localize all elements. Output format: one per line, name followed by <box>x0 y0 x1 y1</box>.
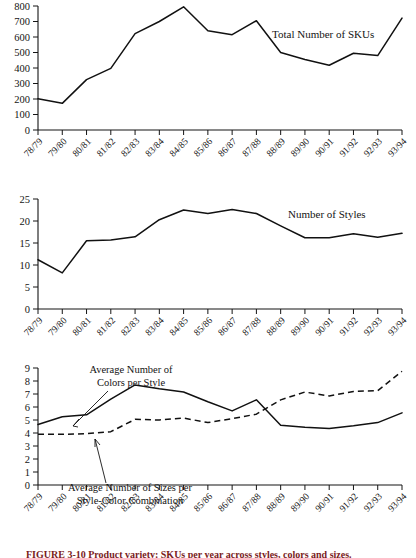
x-tick-label: 84/85 <box>168 136 191 159</box>
x-tick-label: 93/94 <box>386 315 409 338</box>
x-tick-label: 91/92 <box>338 315 361 338</box>
series-group-skus <box>38 7 402 104</box>
x-tick-label: 83/84 <box>143 315 166 338</box>
x-label-group-styles: 78/7979/8080/8181/8282/8383/8484/8585/86… <box>22 315 409 338</box>
x-tick-label: 78/79 <box>22 315 45 338</box>
y-tick-label: 1 <box>25 467 30 478</box>
series-line <box>38 7 402 104</box>
x-tick-label: 82/83 <box>119 136 142 159</box>
x-tick-label: 89/90 <box>289 315 312 338</box>
x-tick-label: 88/89 <box>265 136 288 159</box>
chart-colors-and-sizes-svg: 0123456789 78/7979/8080/8181/8282/8383/8… <box>0 360 416 550</box>
chart-total-skus: 0100200300400500600700800 78/7979/8080/8… <box>0 0 416 185</box>
x-tick-label: 79/80 <box>46 136 69 159</box>
series-line <box>38 371 402 434</box>
annotation-colors-leader <box>73 391 108 426</box>
x-tick-label: 87/88 <box>240 136 263 159</box>
figure-container: 0100200300400500600700800 78/7979/8080/8… <box>0 0 416 558</box>
y-tick-label: 3 <box>25 441 30 452</box>
y-tick-label: 8 <box>25 376 30 387</box>
x-tick-label: 89/90 <box>289 136 312 159</box>
x-tick-label: 83/84 <box>143 136 166 159</box>
chart-colors-and-sizes: 0123456789 78/7979/8080/8181/8282/8383/8… <box>0 360 416 550</box>
x-tick-label: 79/80 <box>46 315 69 338</box>
series-group-colors <box>38 371 402 434</box>
x-tick-label: 86/87 <box>216 315 239 338</box>
series-label-number-of-styles: Number of Styles <box>288 208 366 220</box>
y-tick-label: 10 <box>20 260 31 271</box>
y-tick-label: 4 <box>25 428 31 439</box>
y-tick-label: 100 <box>14 109 30 120</box>
series-label-total-skus: Total Number of SKUs <box>272 28 374 40</box>
x-tick-label: 87/88 <box>240 491 263 514</box>
annotation-colors-arrowhead <box>73 419 79 427</box>
x-tick-label: 85/86 <box>192 491 215 514</box>
y-tick-label: 15 <box>20 238 31 249</box>
x-tick-label: 88/89 <box>265 491 288 514</box>
x-tick-label: 80/81 <box>71 136 94 159</box>
y-tick-label: 5 <box>25 282 30 293</box>
x-tick-label: 81/82 <box>95 136 118 159</box>
chart-total-skus-svg: 0100200300400500600700800 78/7979/8080/8… <box>0 0 416 185</box>
y-tick-label: 700 <box>14 16 30 27</box>
y-tick-label: 2 <box>25 454 30 465</box>
y-tick-label: 6 <box>25 402 30 413</box>
y-tick-label: 0 <box>25 304 30 315</box>
x-tick-label: 86/87 <box>216 136 239 159</box>
x-tick-label: 85/86 <box>192 136 215 159</box>
y-tick-group-colors: 0123456789 <box>25 363 38 491</box>
x-label-group-skus: 78/7979/8080/8181/8282/8383/8484/8585/86… <box>22 136 409 159</box>
x-tick-label: 93/94 <box>386 491 409 514</box>
y-tick-group-skus: 0100200300400500600700800 <box>14 1 38 136</box>
annotation-sizes-line2: Style-Color Combination <box>77 495 184 506</box>
x-tick-label: 88/89 <box>265 315 288 338</box>
x-tick-label: 78/79 <box>22 136 45 159</box>
y-tick-label: 20 <box>20 216 31 227</box>
x-tick-label: 82/83 <box>119 315 142 338</box>
x-tick-label: 84/85 <box>168 315 191 338</box>
y-tick-group-styles: 0510152025 <box>20 194 39 315</box>
annotation-colors-line2: Colors per Style <box>97 377 166 388</box>
x-tick-label: 91/92 <box>338 491 361 514</box>
x-tick-label: 79/80 <box>46 491 69 514</box>
x-tick-label: 93/94 <box>386 136 409 159</box>
x-tick-label: 92/93 <box>362 491 385 514</box>
figure-caption: FIGURE 3-10 Product variety: SKUs per ye… <box>26 549 416 558</box>
y-tick-label: 25 <box>20 194 31 205</box>
chart-number-of-styles: 0510152025 78/7979/8080/8181/8282/8383/8… <box>0 185 416 360</box>
y-tick-label: 400 <box>14 63 30 74</box>
y-tick-label: 800 <box>14 1 30 12</box>
y-tick-label: 500 <box>14 47 30 58</box>
x-tick-label: 90/91 <box>313 491 336 514</box>
x-tick-label: 78/79 <box>22 491 45 514</box>
y-tick-label: 200 <box>14 94 30 105</box>
x-tick-label: 90/91 <box>313 315 336 338</box>
chart-number-of-styles-svg: 0510152025 78/7979/8080/8181/8282/8383/8… <box>0 185 416 360</box>
x-tick-label: 87/88 <box>240 315 263 338</box>
x-tick-label: 86/87 <box>216 491 239 514</box>
x-tick-label: 85/86 <box>192 315 215 338</box>
annotation-sizes-line1: Average Number of Sizes per <box>68 482 193 493</box>
y-tick-label: 9 <box>25 363 30 374</box>
x-tick-label: 89/90 <box>289 491 312 514</box>
x-tick-label: 90/91 <box>313 136 336 159</box>
x-tick-group-styles <box>38 309 402 314</box>
x-tick-label: 92/93 <box>362 136 385 159</box>
y-tick-label: 300 <box>14 78 30 89</box>
x-tick-label: 80/81 <box>71 315 94 338</box>
x-tick-group-skus <box>38 130 402 135</box>
y-tick-label: 7 <box>25 389 30 400</box>
x-tick-label: 81/82 <box>95 315 118 338</box>
y-tick-label: 0 <box>25 125 30 136</box>
y-tick-label: 600 <box>14 32 30 43</box>
annotation-colors-line1: Average Number of <box>89 364 173 375</box>
x-tick-label: 91/92 <box>338 136 361 159</box>
y-tick-label: 5 <box>25 415 30 426</box>
y-tick-label: 0 <box>25 480 30 491</box>
x-tick-label: 92/93 <box>362 315 385 338</box>
annotation-sizes-leader <box>95 439 106 483</box>
